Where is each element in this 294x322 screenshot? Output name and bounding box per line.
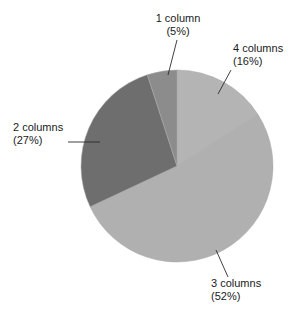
slice-label-percent-1-column: (5%) [166,25,189,37]
slice-label-name-2-columns: 2 columns [13,121,64,133]
pie-chart-canvas: 1 column(5%)4 columns(16%)2 columns(27%)… [0,0,294,322]
slice-label-percent-2-columns: (27%) [13,134,42,146]
slice-label-percent-4-columns: (16%) [233,55,262,67]
slice-label-name-4-columns: 4 columns [233,42,284,54]
slice-label-name-1-column: 1 column [156,12,201,24]
pie-slices-group [81,70,273,262]
pie-chart: 1 column(5%)4 columns(16%)2 columns(27%)… [0,0,294,322]
slice-label-name-3-columns: 3 columns [211,277,262,289]
slice-label-percent-3-columns: (52%) [211,290,240,302]
